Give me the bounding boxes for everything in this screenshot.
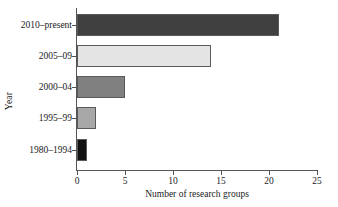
y-tick-label: 1980–1994 bbox=[0, 145, 72, 155]
bar-rect bbox=[77, 107, 96, 129]
bar-rect bbox=[77, 14, 279, 36]
y-axis-title-text: Year bbox=[4, 92, 14, 110]
y-tick-label: 2000–04 bbox=[0, 82, 72, 92]
y-tick-label: 1995–99 bbox=[0, 113, 72, 123]
x-tick-label: 20 bbox=[254, 176, 284, 187]
x-tick-mark bbox=[173, 171, 174, 175]
x-tick-mark bbox=[125, 171, 126, 175]
x-tick-label: 15 bbox=[206, 176, 236, 187]
bar-rect bbox=[77, 76, 125, 98]
y-tick-mark bbox=[72, 25, 77, 26]
x-tick-label: 0 bbox=[62, 176, 92, 187]
x-axis-title: Number of research groups bbox=[77, 189, 317, 199]
y-tick-mark bbox=[72, 150, 77, 151]
bar-rect bbox=[77, 139, 87, 161]
x-tick-label: 25 bbox=[302, 176, 332, 187]
x-tick-label: 10 bbox=[158, 176, 188, 187]
x-tick-mark bbox=[77, 171, 78, 175]
bar-rect bbox=[77, 45, 211, 67]
x-tick-mark bbox=[317, 171, 318, 175]
x-tick-mark bbox=[221, 171, 222, 175]
y-tick-label: 2010–present bbox=[0, 20, 72, 30]
x-tick-label: 5 bbox=[110, 176, 140, 187]
y-tick-mark bbox=[72, 56, 77, 57]
y-tick-mark bbox=[72, 118, 77, 119]
y-tick-mark bbox=[72, 87, 77, 88]
x-tick-mark bbox=[269, 171, 270, 175]
x-axis-line bbox=[76, 170, 318, 171]
bar-chart: Year 2010–present2005–092000–041995–9919… bbox=[0, 0, 338, 207]
y-tick-label: 2005–09 bbox=[0, 51, 72, 61]
